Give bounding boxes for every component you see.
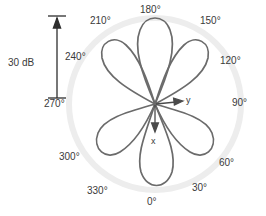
angle-label-0: 0°: [147, 197, 157, 207]
angle-label-30: 30°: [192, 183, 207, 193]
y-axis-label: y: [186, 95, 191, 105]
angle-label-210: 210°: [90, 16, 111, 26]
angle-label-90: 90°: [232, 98, 247, 108]
angle-label-150: 150°: [200, 16, 221, 26]
scale-bar-label: 30 dB: [8, 58, 34, 68]
scale-bar: [48, 16, 66, 98]
lobe-180: [138, 18, 173, 104]
lobe-240: [102, 40, 155, 104]
lobe-120: [155, 40, 208, 104]
polar-plot-svg: [0, 0, 266, 216]
angle-label-300: 300°: [59, 152, 80, 162]
angle-label-270: 270°: [44, 99, 65, 109]
lobe-0: [140, 104, 174, 186]
angle-label-180: 180°: [140, 5, 161, 15]
angle-label-120: 120°: [220, 56, 241, 66]
angle-label-330: 330°: [87, 186, 108, 196]
polar-plot-figure: 30 dB x y 180° 150° 120° 90° 60° 30° 0° …: [0, 0, 266, 216]
angle-label-240: 240°: [65, 52, 86, 62]
x-axis-label: x: [151, 136, 156, 146]
angle-label-60: 60°: [219, 158, 234, 168]
lobe-60: [155, 104, 213, 155]
radiation-lobes: [97, 18, 214, 186]
